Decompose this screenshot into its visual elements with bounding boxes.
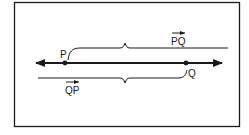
ray-qp-label: QP (65, 85, 80, 96)
frame-border (15, 3, 240, 127)
ray-qp-label-group: QP (65, 82, 80, 96)
point-p-label: P (60, 49, 67, 60)
brace-ray-qp (38, 70, 187, 83)
brace-ray-pq (68, 43, 228, 60)
point-q-label: Q (188, 68, 196, 79)
ray-pq-label-group: PQ (171, 33, 186, 47)
point-p-dot (63, 61, 68, 66)
diagram-canvas: P Q PQ QP (0, 0, 249, 135)
point-q-dot (184, 61, 189, 66)
ray-pq-label: PQ (171, 36, 186, 47)
